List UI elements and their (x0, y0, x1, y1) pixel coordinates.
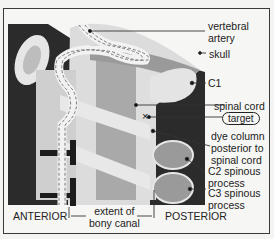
label-dye-column: dye columnposterior tospinal cord (211, 130, 265, 166)
c3-spinous (153, 173, 193, 203)
label-skull: skull (209, 48, 230, 60)
c2-spinous (153, 141, 193, 169)
label-c2-spinous: C2 spinousprocess (208, 165, 261, 189)
label-anterior: ANTERIOR (13, 210, 67, 222)
label-posterior: POSTERIOR (165, 210, 227, 222)
label-target: target (222, 112, 260, 125)
label-vertebral-artery: vertebralartery (208, 20, 249, 44)
label-extent-bony-canal: extent ofbony canal (89, 205, 140, 229)
label-c1: C1 (208, 77, 221, 89)
label-spinal-cord: spinal cord (214, 100, 265, 112)
target-x-marker: × (142, 110, 148, 122)
label-c3-spinous: C3 spinousprocess (208, 187, 261, 211)
